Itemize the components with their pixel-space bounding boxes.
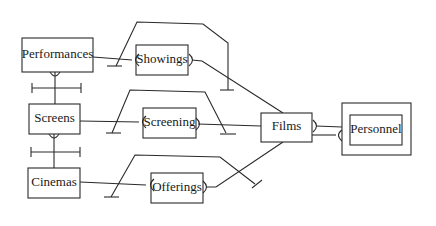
entity-screens[interactable]: Screens bbox=[29, 104, 80, 134]
crowfoot-films bbox=[313, 120, 317, 132]
entity-performances[interactable]: Performances bbox=[22, 38, 93, 72]
entity-label-cinemas: Cinemas bbox=[31, 174, 77, 189]
bar-offerings-right bbox=[252, 180, 262, 188]
entity-cinemas[interactable]: Cinemas bbox=[28, 168, 80, 198]
entity-offerings[interactable]: Offerings bbox=[151, 173, 207, 203]
er-diagram: Performances Showings Screens Screening … bbox=[0, 0, 436, 226]
line-films-personnel-1 bbox=[316, 126, 342, 127]
bar-screens-cinemas bbox=[31, 147, 80, 157]
entity-screening[interactable]: Screening bbox=[143, 108, 200, 138]
entity-personnel[interactable]: Personnel bbox=[342, 103, 411, 155]
entity-label-offerings: Offerings bbox=[152, 179, 202, 194]
entity-label-screening: Screening bbox=[144, 114, 196, 129]
line-cinemas-offerings bbox=[80, 182, 146, 185]
entity-label-screens: Screens bbox=[34, 110, 74, 125]
entity-label-personnel: Personnel bbox=[350, 121, 402, 136]
entity-showings[interactable]: Showings bbox=[136, 45, 193, 75]
bar-performances-screens bbox=[32, 83, 81, 93]
line-screens-screening bbox=[80, 121, 139, 122]
entity-label-films: Films bbox=[272, 118, 302, 133]
line-showings-films bbox=[192, 60, 283, 113]
line-performances-showings bbox=[93, 57, 132, 60]
crowfoot-showings-right bbox=[189, 54, 193, 66]
line-screening-films bbox=[198, 124, 261, 126]
entity-films[interactable]: Films bbox=[261, 113, 312, 142]
entity-label-showings: Showings bbox=[136, 51, 187, 66]
line-offerings-films bbox=[207, 142, 283, 187]
entity-label-performances: Performances bbox=[22, 46, 93, 61]
